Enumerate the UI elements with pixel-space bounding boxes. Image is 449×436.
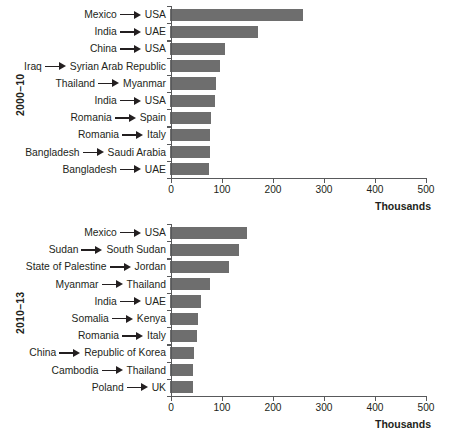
x-axis-tick-label: 500 bbox=[418, 402, 435, 413]
bar-cell bbox=[170, 109, 449, 126]
bar-cell bbox=[170, 23, 449, 40]
category-label: RomaniaSpain bbox=[0, 112, 170, 123]
x-axis-tick bbox=[222, 396, 223, 401]
origin-country-label: China bbox=[29, 347, 56, 358]
category-label: PolandUK bbox=[0, 382, 170, 393]
bar-row: MexicoUSA bbox=[0, 224, 449, 241]
bar[interactable] bbox=[170, 261, 229, 273]
category-label: MexicoUSA bbox=[0, 227, 170, 238]
bar[interactable] bbox=[170, 278, 210, 290]
bar[interactable] bbox=[170, 95, 215, 107]
category-label: BangladeshUAE bbox=[0, 164, 170, 175]
arrow-right-icon bbox=[120, 27, 142, 36]
arrow-right-icon bbox=[45, 62, 67, 71]
x-axis-tick bbox=[273, 178, 274, 183]
bar[interactable] bbox=[170, 347, 194, 359]
origin-country-label: Sudan bbox=[49, 244, 79, 255]
origin-country-label: Somalia bbox=[72, 313, 109, 324]
bar-row: ChinaUSA bbox=[0, 40, 449, 57]
bar[interactable] bbox=[170, 227, 247, 239]
bar[interactable] bbox=[170, 43, 225, 55]
destination-country-label: Thailand bbox=[127, 365, 167, 376]
x-axis-tick bbox=[375, 396, 376, 401]
category-label: SomaliaKenya bbox=[0, 313, 170, 324]
bar[interactable] bbox=[170, 60, 220, 72]
bar-cell bbox=[170, 224, 449, 241]
bar-row: SomaliaKenya bbox=[0, 310, 449, 327]
destination-country-label: South Sudan bbox=[106, 244, 166, 255]
bar-cell bbox=[170, 40, 449, 57]
x-axis-title: Thousands bbox=[375, 418, 431, 430]
origin-country-label: Myanmar bbox=[56, 279, 99, 290]
origin-country-label: Iraq bbox=[24, 61, 42, 72]
category-label: ChinaUSA bbox=[0, 43, 170, 54]
x-axis-tick bbox=[273, 396, 274, 401]
bar-row: SudanSouth Sudan bbox=[0, 241, 449, 258]
bar-row: ChinaRepublic of Korea bbox=[0, 344, 449, 361]
y-axis-spine bbox=[171, 6, 172, 178]
origin-country-label: State of Palestine bbox=[26, 261, 107, 272]
arrow-right-icon bbox=[120, 44, 142, 53]
bar[interactable] bbox=[170, 9, 303, 21]
bar-row: BangladeshSaudi Arabia bbox=[0, 144, 449, 161]
origin-country-label: Poland bbox=[92, 382, 124, 393]
bar[interactable] bbox=[170, 26, 258, 38]
destination-country-label: Syrian Arab Republic bbox=[70, 61, 166, 72]
origin-country-label: Romania bbox=[78, 330, 119, 341]
origin-country-label: Mexico bbox=[84, 9, 117, 20]
destination-country-label: Jordan bbox=[135, 261, 166, 272]
bar-cell bbox=[170, 293, 449, 310]
bar-row: RomaniaSpain bbox=[0, 109, 449, 126]
origin-country-label: Cambodia bbox=[52, 365, 99, 376]
category-label: IndiaUAE bbox=[0, 296, 170, 307]
destination-country-label: Kenya bbox=[137, 313, 166, 324]
chart-panel-2000-10: 2000–10 MexicoUSAIndiaUAEChinaUSAIraqSyr… bbox=[0, 0, 449, 212]
destination-country-label: USA bbox=[145, 95, 166, 106]
y-axis-spine bbox=[171, 224, 172, 396]
origin-country-label: Romania bbox=[70, 112, 111, 123]
x-axis-tick-label: 100 bbox=[214, 402, 231, 413]
origin-country-label: Bangladesh bbox=[25, 147, 79, 158]
bar[interactable] bbox=[170, 381, 193, 393]
arrow-right-icon bbox=[102, 366, 124, 375]
bar[interactable] bbox=[170, 77, 216, 89]
arrow-right-icon bbox=[120, 96, 142, 105]
bar[interactable] bbox=[170, 163, 209, 175]
destination-country-label: Myanmar bbox=[123, 78, 166, 89]
category-label: BangladeshSaudi Arabia bbox=[0, 147, 170, 158]
origin-country-label: Mexico bbox=[84, 227, 117, 238]
bar-cell bbox=[170, 144, 449, 161]
bar-row: IndiaUAE bbox=[0, 293, 449, 310]
arrow-right-icon bbox=[115, 113, 137, 122]
category-label: IndiaUSA bbox=[0, 95, 170, 106]
bar[interactable] bbox=[170, 112, 211, 124]
destination-country-label: USA bbox=[145, 43, 166, 54]
destination-country-label: USA bbox=[145, 227, 166, 238]
bar[interactable] bbox=[170, 330, 197, 342]
origin-country-label: Romania bbox=[78, 129, 119, 140]
bar[interactable] bbox=[170, 129, 210, 141]
x-axis-line bbox=[171, 178, 426, 179]
category-label: MexicoUSA bbox=[0, 9, 170, 20]
bar[interactable] bbox=[170, 364, 193, 376]
bar[interactable] bbox=[170, 244, 239, 256]
destination-country-label: Italy bbox=[147, 330, 166, 341]
origin-country-label: India bbox=[94, 296, 116, 307]
bar[interactable] bbox=[170, 146, 210, 158]
category-label: ThailandMyanmar bbox=[0, 78, 170, 89]
x-axis-tick-label: 100 bbox=[214, 184, 231, 195]
bar-row: RomaniaItaly bbox=[0, 126, 449, 143]
bar-row: IraqSyrian Arab Republic bbox=[0, 58, 449, 75]
arrow-right-icon bbox=[120, 10, 142, 19]
bar[interactable] bbox=[170, 313, 198, 325]
destination-country-label: UAE bbox=[145, 26, 166, 37]
bar-cell bbox=[170, 6, 449, 23]
x-axis-tick bbox=[426, 396, 427, 401]
destination-country-label: USA bbox=[145, 9, 166, 20]
x-axis-tick-label: 200 bbox=[265, 402, 282, 413]
category-label: State of PalestineJordan bbox=[0, 261, 170, 272]
bar-cell bbox=[170, 258, 449, 275]
bar[interactable] bbox=[170, 295, 201, 307]
x-axis-tick bbox=[324, 396, 325, 401]
bar-cell bbox=[170, 379, 449, 396]
